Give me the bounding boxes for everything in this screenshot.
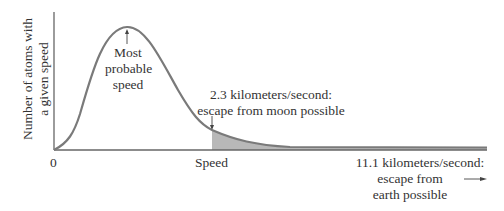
earth-annotation-line1: 11.1 kilometers/second:	[355, 155, 485, 171]
earth-annotation-line3: earth possible	[365, 187, 455, 203]
x-axis-label: Speed	[195, 155, 228, 171]
peak-annotation-line2: probable	[105, 61, 151, 77]
y-axis-label: Number of atoms with a given speed	[20, 11, 52, 147]
peak-annotation-line3: speed	[105, 77, 151, 93]
earth-annotation: 11.1 kilometers/second:	[355, 155, 485, 171]
earth-arrow-head	[480, 177, 487, 181]
moon-annotation-line1: 2.3 kilometers/second:	[196, 87, 346, 103]
moon-annotation-line2: escape from moon possible	[196, 103, 346, 119]
origin-label: 0	[50, 155, 57, 171]
y-axis-label-line1: Number of atoms with	[20, 11, 36, 147]
peak-arrow-head	[125, 29, 129, 34]
y-axis-label-line2: a given speed	[36, 11, 52, 147]
peak-annotation-line1: Most	[105, 45, 151, 61]
moon-annotation: 2.3 kilometers/second: escape from moon …	[196, 87, 346, 119]
earth-annotation-line2: escape from	[370, 171, 450, 187]
peak-annotation: Most probable speed	[105, 45, 151, 93]
